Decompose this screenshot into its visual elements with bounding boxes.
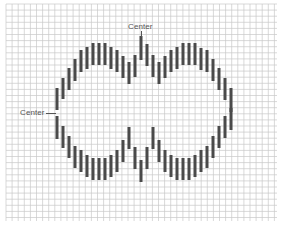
stitch (206, 146, 209, 168)
stitch (218, 68, 221, 90)
stitch (110, 47, 113, 69)
stitch (62, 126, 65, 148)
stitch (128, 127, 131, 149)
stitch (104, 43, 107, 65)
stitch (122, 140, 125, 162)
stitch (98, 158, 101, 180)
stitch (86, 47, 89, 69)
stitch (116, 50, 119, 72)
stitch (110, 155, 113, 177)
stitch (74, 59, 77, 81)
stitch (224, 78, 227, 100)
stitch (170, 50, 173, 72)
stitch (128, 62, 131, 84)
center-label-left: Center (20, 108, 45, 117)
stitch (212, 59, 215, 81)
stitch (158, 62, 161, 84)
stitch (176, 47, 179, 69)
stitch (122, 56, 125, 78)
stitch (200, 150, 203, 172)
stitch (134, 147, 137, 169)
stitch (56, 116, 59, 139)
stitch (188, 158, 191, 180)
lower-stitch-row (56, 108, 233, 182)
stitch (212, 136, 215, 158)
stitch (140, 160, 143, 182)
stitch (68, 136, 71, 158)
stitch (176, 158, 179, 180)
stitch (98, 43, 101, 65)
center-leader-left (46, 113, 56, 114)
stitch (146, 147, 149, 169)
stitch (230, 108, 233, 130)
stitch (170, 155, 173, 177)
stitch (158, 140, 161, 162)
stitch (206, 50, 209, 72)
stitch (224, 116, 227, 138)
stitch (164, 56, 167, 78)
center-label-top: Center (128, 22, 153, 31)
stitch (194, 43, 197, 65)
stitch (200, 48, 203, 70)
stitch (146, 44, 149, 66)
stitch (194, 155, 197, 177)
stitch (80, 150, 83, 172)
stitch (218, 126, 221, 148)
stitch (182, 43, 185, 65)
stitch (182, 158, 185, 180)
stitch (134, 55, 137, 77)
stitch (92, 158, 95, 180)
stitch (104, 158, 107, 180)
stitch (68, 68, 71, 90)
stitch (80, 50, 83, 72)
stitch (188, 43, 191, 65)
stitch (140, 36, 143, 60)
stitch (74, 146, 77, 168)
stitch (164, 150, 167, 172)
stitch (152, 127, 155, 149)
stitch (116, 150, 119, 172)
stitch (92, 43, 95, 65)
stitch (56, 88, 59, 110)
stitch (152, 55, 155, 77)
stitch (62, 78, 65, 99)
upper-stitch-row (56, 36, 233, 112)
center-leader-top (141, 31, 142, 37)
stitch (86, 155, 89, 177)
